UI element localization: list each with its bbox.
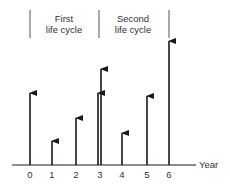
tick-label-5: 5	[144, 169, 149, 180]
first-cycle-label-line2: life cycle	[46, 24, 82, 35]
first-cycle-label-line1: First	[55, 13, 74, 24]
tick-label-1: 1	[49, 169, 54, 180]
tick-label-0: 0	[27, 169, 32, 180]
tick-label-6: 6	[166, 169, 171, 180]
cash-flow-diagram: First life cycle Second life cycle Year …	[0, 0, 230, 188]
tick-label-2: 2	[73, 169, 78, 180]
second-cycle-label-line2: life cycle	[115, 24, 151, 35]
tick-label-4: 4	[119, 169, 124, 180]
tick-label-3: 3	[97, 169, 102, 180]
axis-label-year: Year	[199, 159, 218, 170]
second-cycle-label-line1: Second	[117, 13, 149, 24]
